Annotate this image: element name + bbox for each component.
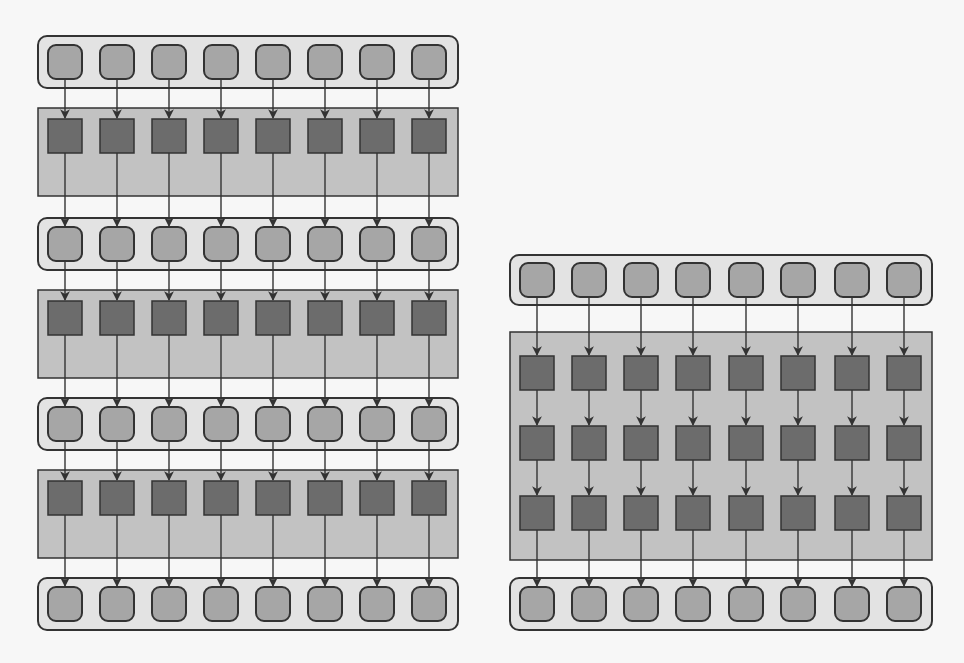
layer-node xyxy=(835,426,869,460)
row-node xyxy=(781,587,815,621)
row-node xyxy=(887,587,921,621)
row-node xyxy=(204,587,238,621)
layer-node xyxy=(256,481,290,515)
row-node xyxy=(572,587,606,621)
layer-node xyxy=(152,301,186,335)
row-node xyxy=(520,587,554,621)
layer-node xyxy=(256,301,290,335)
row-node xyxy=(729,263,763,297)
layer-node xyxy=(729,356,763,390)
layer-node xyxy=(676,356,710,390)
layer-node xyxy=(360,481,394,515)
layer-node xyxy=(308,119,342,153)
row-node xyxy=(781,263,815,297)
layer-node xyxy=(572,426,606,460)
row-node xyxy=(100,45,134,79)
layer-node xyxy=(624,496,658,530)
layer-node xyxy=(676,496,710,530)
row-node xyxy=(360,407,394,441)
layer-node xyxy=(48,119,82,153)
row-node xyxy=(835,587,869,621)
layer-node xyxy=(572,496,606,530)
row-node xyxy=(48,227,82,261)
layer-node xyxy=(781,356,815,390)
layer-node xyxy=(360,301,394,335)
row-node xyxy=(48,407,82,441)
layer-node xyxy=(572,356,606,390)
row-node xyxy=(308,587,342,621)
layer-node xyxy=(100,119,134,153)
row-node xyxy=(256,45,290,79)
layer-node xyxy=(48,301,82,335)
layer-node xyxy=(729,426,763,460)
layer-node xyxy=(308,301,342,335)
layer-node xyxy=(781,426,815,460)
layer-node xyxy=(887,426,921,460)
row-node xyxy=(835,263,869,297)
layer-node xyxy=(729,496,763,530)
row-node xyxy=(412,227,446,261)
row-node xyxy=(48,45,82,79)
row-node xyxy=(624,587,658,621)
layer-node xyxy=(412,301,446,335)
layer-node xyxy=(835,496,869,530)
layer-node xyxy=(887,496,921,530)
row-node xyxy=(100,227,134,261)
layer-node xyxy=(152,119,186,153)
row-node xyxy=(308,45,342,79)
row-node xyxy=(256,407,290,441)
row-node xyxy=(256,587,290,621)
row-node xyxy=(676,263,710,297)
row-node xyxy=(676,587,710,621)
figure xyxy=(0,0,964,663)
layer-node xyxy=(204,301,238,335)
right-architecture-diagram xyxy=(510,255,932,630)
row-node xyxy=(412,587,446,621)
row-node xyxy=(308,407,342,441)
layer-node xyxy=(308,481,342,515)
row-node xyxy=(360,587,394,621)
row-node xyxy=(152,45,186,79)
row-node xyxy=(100,587,134,621)
layer-node xyxy=(48,481,82,515)
row-node xyxy=(48,587,82,621)
row-node xyxy=(152,407,186,441)
layer-node xyxy=(887,356,921,390)
row-node xyxy=(360,45,394,79)
row-node xyxy=(256,227,290,261)
layer-node xyxy=(520,496,554,530)
row-node xyxy=(412,45,446,79)
row-node xyxy=(204,407,238,441)
layer-node xyxy=(100,301,134,335)
row-node xyxy=(152,227,186,261)
row-node xyxy=(520,263,554,297)
layer-node xyxy=(360,119,394,153)
row-node xyxy=(152,587,186,621)
row-node xyxy=(308,227,342,261)
left-architecture-diagram xyxy=(38,36,458,630)
row-node xyxy=(887,263,921,297)
layer-node xyxy=(676,426,710,460)
row-node xyxy=(729,587,763,621)
row-node xyxy=(624,263,658,297)
layer-node xyxy=(520,356,554,390)
row-node xyxy=(204,227,238,261)
layer-node xyxy=(412,481,446,515)
diagram-canvas xyxy=(0,0,964,663)
layer-node xyxy=(152,481,186,515)
row-node xyxy=(100,407,134,441)
row-node xyxy=(360,227,394,261)
layer-node xyxy=(781,496,815,530)
row-node xyxy=(412,407,446,441)
layer-node xyxy=(624,426,658,460)
layer-node xyxy=(520,426,554,460)
layer-node xyxy=(412,119,446,153)
layer-node xyxy=(835,356,869,390)
row-node xyxy=(204,45,238,79)
layer-node xyxy=(204,481,238,515)
layer-node xyxy=(204,119,238,153)
layer-node xyxy=(624,356,658,390)
layer-node xyxy=(100,481,134,515)
row-node xyxy=(572,263,606,297)
layer-node xyxy=(256,119,290,153)
